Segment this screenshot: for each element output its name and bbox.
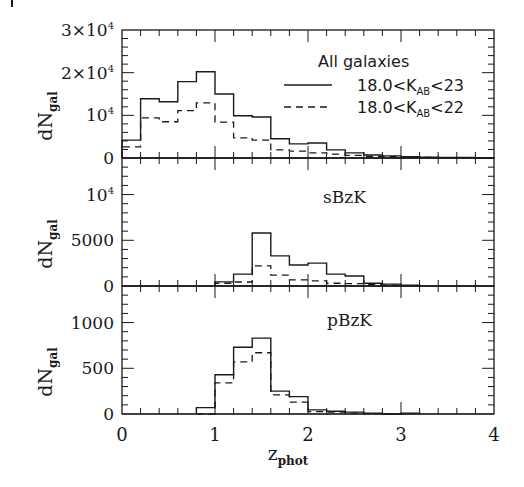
y-label-main: dN (34, 112, 56, 141)
y-tick-label: 5000 (71, 230, 114, 250)
panel-label-pbzk: pBzK (327, 310, 372, 330)
x-tick-label: 3 (395, 424, 406, 445)
y-tick-label: 0 (103, 148, 114, 168)
legend-entry-k23-suffix: <23 (430, 76, 464, 95)
legend-entry-k23-sub: AB (417, 86, 431, 97)
legend-entry-k22-sub: AB (417, 108, 431, 119)
y-label-sub: gal (46, 347, 60, 368)
redshift-distribution-figure: 01042×1043×104 05000104 05001000 All gal… (0, 0, 524, 487)
legend-entry-k23-prefix: 18.0<K (357, 76, 417, 95)
y-label-sub: gal (46, 219, 60, 240)
legend-entry-k22: 18.0<KAB<22 (357, 98, 464, 119)
y-tick-label: 3×104 (61, 20, 114, 40)
legend-entry-k23: 18.0<KAB<23 (357, 76, 464, 97)
y-label-main: dN (34, 240, 56, 269)
x-tick-label: 2 (302, 424, 313, 445)
y-label-sub: gal (46, 91, 60, 112)
crop-mark (11, 0, 13, 7)
y-tick-label: 1000 (71, 313, 114, 333)
x-tick-label: 0 (116, 424, 127, 445)
x-label-main: z (268, 442, 278, 464)
y-tick-label: 0 (103, 404, 114, 424)
x-tick-label: 4 (488, 424, 499, 445)
y-tick-label: 500 (82, 358, 114, 378)
legend-entry-k22-prefix: 18.0<K (357, 98, 417, 117)
legend-entry-k22-suffix: <22 (430, 98, 464, 117)
legend-title: All galaxies (318, 52, 409, 71)
panel-label-sbzk: sBzK (323, 187, 366, 207)
y-tick-label: 0 (103, 276, 114, 296)
y-tick-label: 2×104 (61, 63, 114, 83)
x-tick-label: 1 (209, 424, 220, 445)
y-label-main: dN (34, 368, 56, 397)
x-label-sub: phot (278, 454, 309, 468)
